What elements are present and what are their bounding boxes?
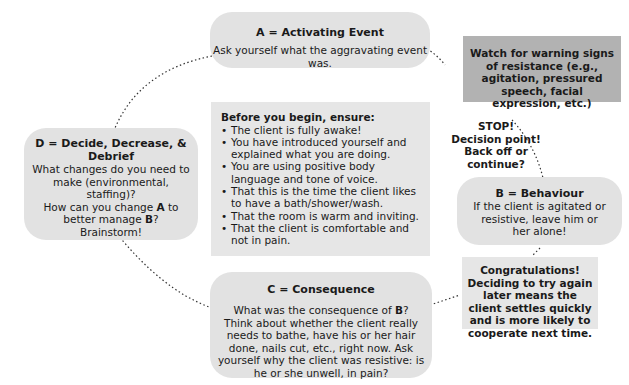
decide-box: D = Decide, Decrease, & Debrief What cha… bbox=[24, 128, 198, 240]
decide-text-brainstorm: Brainstorm! bbox=[32, 226, 190, 239]
warning-signs-box: Watch for warning signs of resistance (e… bbox=[463, 36, 621, 102]
before-you-begin-heading: Before you begin, ensure: bbox=[221, 111, 422, 124]
checklist-items: The client is fully awake! You have intr… bbox=[221, 124, 422, 247]
checklist-item: That this is the time the client likes t… bbox=[221, 185, 422, 210]
checklist-item: You are using positive body language and… bbox=[221, 160, 422, 185]
connector-b-to-congrats bbox=[532, 248, 540, 256]
checklist-item: The client is fully awake! bbox=[221, 124, 422, 136]
behaviour-box: B = Behaviour If the client is agitated … bbox=[457, 177, 622, 245]
checklist-item: That the room is warm and inviting. bbox=[221, 210, 422, 222]
activating-event-title: A = Activating Event bbox=[210, 26, 430, 39]
consequence-question: What was the consequence of B? bbox=[216, 304, 426, 317]
decide-text-how: How can you change A to better manage B? bbox=[32, 201, 190, 226]
connector-c-to-congrats bbox=[430, 295, 460, 305]
behaviour-title: B = Behaviour bbox=[471, 187, 608, 200]
activating-event-text: Ask yourself what the aggravating event … bbox=[210, 44, 430, 69]
behaviour-text: If the client is agitated or resistive, … bbox=[471, 200, 608, 238]
decide-title: D = Decide, Decrease, & Debrief bbox=[32, 137, 190, 163]
decide-text-changes: What changes do you need to make (enviro… bbox=[32, 163, 190, 201]
before-you-begin-box: Before you begin, ensure: The client is … bbox=[211, 102, 430, 256]
congratulations-text: Deciding to try again later means the cl… bbox=[466, 277, 594, 340]
congratulations-heading: Congratulations! bbox=[466, 264, 594, 277]
consequence-title: C = Consequence bbox=[216, 283, 426, 296]
stop-decision-note: STOP! Decision point! Back off or contin… bbox=[450, 120, 542, 170]
connector-a-to-d bbox=[115, 56, 212, 128]
warning-signs-text: Watch for warning signs of resistance (e… bbox=[469, 47, 615, 110]
consequence-box: C = Consequence What was the consequence… bbox=[210, 272, 432, 378]
congratulations-box: Congratulations! Deciding to try again l… bbox=[462, 257, 598, 329]
checklist-item: You have introduced yourself and explain… bbox=[221, 136, 422, 161]
checklist-item: That the client is comfortable and not i… bbox=[221, 222, 422, 247]
activating-event-box: A = Activating Event Ask yourself what t… bbox=[210, 12, 430, 68]
consequence-text: Think about whether the client really ne… bbox=[216, 317, 426, 380]
